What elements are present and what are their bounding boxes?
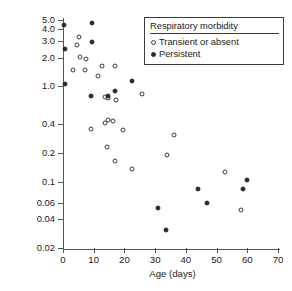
data-point xyxy=(205,200,210,205)
data-point xyxy=(156,205,161,210)
x-axis-tick: 30 xyxy=(155,248,156,253)
y-axis-tick-label: 0.06 xyxy=(37,197,55,208)
x-axis-tick-label: 10 xyxy=(88,254,99,265)
x-axis-tick: 10 xyxy=(94,248,95,253)
legend-item-transient-or-absent: Transient or absent xyxy=(150,36,279,48)
y-axis-tick-label: 0.2 xyxy=(42,147,55,158)
x-axis-tick: 0 xyxy=(63,248,64,253)
data-point xyxy=(114,98,119,103)
y-axis-tick-label: 0.1 xyxy=(42,176,55,187)
data-point xyxy=(90,40,95,45)
data-point xyxy=(62,82,67,87)
data-point xyxy=(70,67,75,72)
data-point xyxy=(110,119,115,124)
legend-item-label: Transient or absent xyxy=(159,36,239,48)
data-point xyxy=(113,158,118,163)
data-point xyxy=(90,20,95,25)
x-axis-title: Age (days) xyxy=(60,268,285,279)
data-point xyxy=(112,88,117,93)
y-axis-tick-label: 5.0 xyxy=(42,14,55,25)
data-point xyxy=(88,94,93,99)
data-point xyxy=(238,208,243,213)
y-axis-tick-label: 1.0 xyxy=(42,80,55,91)
y-axis-tick: 0.4 xyxy=(58,124,63,125)
x-axis-tick-label: 60 xyxy=(242,254,253,265)
data-point xyxy=(88,126,93,131)
data-point xyxy=(112,63,117,68)
data-point xyxy=(75,43,80,48)
x-axis-tick: 20 xyxy=(124,248,125,253)
x-axis-tick: 60 xyxy=(247,248,248,253)
x-axis-tick: 40 xyxy=(186,248,187,253)
data-point xyxy=(129,167,134,172)
y-axis-tick-label: 0.02 xyxy=(37,242,55,253)
y-axis-tick: 0.2 xyxy=(58,153,63,154)
y-axis-tick-label: 2.0 xyxy=(42,52,55,63)
x-axis-tick-label: 0 xyxy=(60,254,65,265)
y-axis-tick: 4.0 xyxy=(58,29,63,30)
x-axis-tick-label: 50 xyxy=(211,254,222,265)
legend-title: Respiratory morbidity xyxy=(150,21,279,34)
data-point xyxy=(105,94,110,99)
y-axis-tick-label: 0.4 xyxy=(42,118,55,129)
y-axis-tick: 0.04 xyxy=(58,219,63,220)
data-point xyxy=(164,153,169,158)
data-point xyxy=(240,186,245,191)
y-axis-tick: 0.1 xyxy=(58,182,63,183)
filled-circle-marker-icon xyxy=(151,52,156,57)
legend-item-persistent: Persistent xyxy=(150,48,279,60)
data-point xyxy=(83,56,88,61)
x-axis-tick-label: 20 xyxy=(119,254,130,265)
x-axis-tick-label: 40 xyxy=(181,254,192,265)
data-point xyxy=(62,23,67,28)
x-axis-tick: 50 xyxy=(217,248,218,253)
y-axis-tick-label: 3.0 xyxy=(42,35,55,46)
data-point xyxy=(104,145,109,150)
data-point xyxy=(139,92,144,97)
data-point xyxy=(245,177,250,182)
data-point xyxy=(121,127,126,132)
data-point xyxy=(62,46,67,51)
y-axis-tick-label: 0.04 xyxy=(37,213,55,224)
data-point xyxy=(172,132,177,137)
data-point xyxy=(78,54,83,59)
data-point xyxy=(76,35,81,40)
data-point xyxy=(164,227,169,232)
y-axis-tick: 5.0 xyxy=(58,20,63,21)
data-point xyxy=(223,170,228,175)
y-axis-tick: 1.0 xyxy=(58,86,63,87)
scatter-chart-figure: Percent fractional sodium excretion 0.02… xyxy=(0,0,292,291)
y-axis-tick: 3.0 xyxy=(58,41,63,42)
y-axis-tick: 2.0 xyxy=(58,58,63,59)
x-axis-tick-label: 70 xyxy=(273,254,284,265)
legend: Respiratory morbidity Transient or absen… xyxy=(144,17,284,65)
x-axis-tick-label: 30 xyxy=(150,254,161,265)
data-point xyxy=(96,73,101,78)
legend-item-label: Persistent xyxy=(159,48,200,60)
x-axis-tick: 70 xyxy=(278,248,279,253)
data-point xyxy=(196,187,201,192)
data-point xyxy=(82,67,87,72)
data-point xyxy=(100,63,105,68)
data-point xyxy=(130,78,135,83)
open-circle-marker-icon xyxy=(151,40,156,45)
y-axis-tick: 0.06 xyxy=(58,203,63,204)
